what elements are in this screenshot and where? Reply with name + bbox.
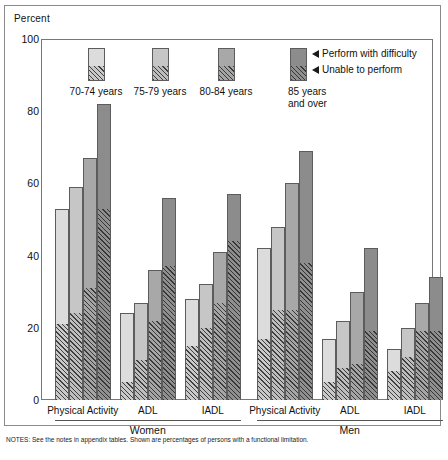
y-tick-60: 60: [5, 177, 39, 189]
legend-swatch-top: [153, 49, 168, 66]
y-tick-0: 0: [5, 394, 39, 406]
bar-men-iadl-80-84-years: [415, 303, 429, 400]
bar-segment-unable-to-perform: [286, 310, 298, 400]
bar-segment-perform-with-difficulty: [323, 340, 335, 383]
bar-segment-unable-to-perform: [149, 321, 161, 400]
bar-women-iadl-70-74-years: [185, 299, 199, 400]
bar-segment-unable-to-perform: [300, 263, 312, 400]
bar-women-adl-75-79-years: [134, 303, 148, 400]
bar-segment-perform-with-difficulty: [258, 249, 270, 339]
bar-segment-unable-to-perform: [56, 324, 68, 400]
bar-men-adl-85-years-and-over: [364, 248, 378, 400]
bar-women-adl-80-84-years: [148, 270, 162, 400]
bar-segment-unable-to-perform: [70, 313, 82, 400]
bar-segment-perform-with-difficulty: [430, 278, 442, 332]
bar-segment-perform-with-difficulty: [351, 293, 363, 365]
bar-women-iadl-85-years-and-over: [227, 194, 241, 400]
bar-segment-perform-with-difficulty: [388, 350, 400, 372]
legend-swatch-75-79: [152, 48, 169, 81]
bar-women-physical-activity-70-74-years: [55, 209, 69, 400]
x-label-physical-activity: Physical Activity: [249, 405, 320, 416]
y-tick-20: 20: [5, 322, 39, 334]
bar-segment-unable-to-perform: [228, 241, 240, 400]
bar-segment-perform-with-difficulty: [186, 300, 198, 347]
bar-men-adl-75-79-years: [336, 321, 350, 400]
bar-segment-unable-to-perform: [365, 331, 377, 400]
bar-segment-perform-with-difficulty: [149, 271, 161, 322]
bar-segment-unable-to-perform: [258, 339, 270, 400]
bar-segment-perform-with-difficulty: [70, 188, 82, 314]
bar-segment-perform-with-difficulty: [402, 329, 414, 358]
bar-segment-unable-to-perform: [135, 360, 147, 400]
bar-segment-perform-with-difficulty: [365, 249, 377, 332]
bar-segment-unable-to-perform: [186, 346, 198, 400]
bar-women-iadl-75-79-years: [199, 284, 213, 400]
bar-segment-perform-with-difficulty: [272, 228, 284, 311]
bar-men-iadl-70-74-years: [387, 349, 401, 400]
bar-segment-unable-to-perform: [337, 368, 349, 400]
bar-segment-perform-with-difficulty: [228, 195, 240, 242]
bar-segment-unable-to-perform: [351, 364, 363, 400]
bar-men-adl-70-74-years: [322, 339, 336, 400]
x-label-iadl: IADL: [404, 405, 426, 416]
group-rule-men: [257, 420, 443, 421]
bar-segment-perform-with-difficulty: [163, 199, 175, 268]
bar-women-physical-activity-80-84-years: [83, 158, 97, 400]
bar-segment-unable-to-perform: [430, 331, 442, 400]
bar-segment-unable-to-perform: [163, 266, 175, 400]
bar-segment-perform-with-difficulty: [416, 304, 428, 333]
bar-segment-perform-with-difficulty: [200, 285, 212, 328]
bar-segment-unable-to-perform: [84, 288, 96, 400]
bar-segment-perform-with-difficulty: [84, 159, 96, 289]
legend-label-85-over-line1: 85 years: [288, 86, 326, 97]
left-arrow-icon: [312, 66, 319, 74]
bar-segment-unable-to-perform: [323, 382, 335, 400]
bar-women-physical-activity-85-years-and-over: [97, 104, 111, 400]
figure-footnote: NOTES: See the notes in appendix tables.…: [6, 436, 442, 458]
bar-segment-unable-to-perform: [388, 371, 400, 400]
bar-segment-unable-to-perform: [272, 310, 284, 400]
legend-label-70-74: 70-74 years: [70, 86, 123, 97]
legend-swatch-bottom: [219, 66, 234, 80]
bar-segment-unable-to-perform: [121, 382, 133, 400]
bar-men-iadl-75-79-years: [401, 328, 415, 400]
legend-label-75-79: 75-79 years: [134, 86, 187, 97]
left-arrow-icon: [312, 50, 319, 58]
legend-swatch-70-74: [88, 48, 105, 81]
bar-women-adl-85-years-and-over: [162, 198, 176, 400]
legend-swatch-85-over: [290, 48, 307, 81]
bar-segment-perform-with-difficulty: [121, 314, 133, 383]
legend-swatch-top: [219, 49, 234, 66]
bar-men-iadl-85-years-and-over: [429, 277, 443, 400]
bar-men-physical-activity-85-years-and-over: [299, 151, 313, 400]
bar-segment-unable-to-perform: [200, 328, 212, 400]
bar-men-physical-activity-75-79-years: [271, 227, 285, 400]
bar-segment-unable-to-perform: [214, 303, 226, 400]
bar-segment-unable-to-perform: [98, 209, 110, 400]
chart-figure: Percent 100 80 60 40 20 0 Physical Activ…: [0, 0, 448, 460]
bar-women-physical-activity-75-79-years: [69, 187, 83, 400]
legend-swatch-top: [89, 49, 104, 66]
bar-segment-perform-with-difficulty: [286, 184, 298, 310]
bar-men-physical-activity-70-74-years: [257, 248, 271, 400]
bar-men-physical-activity-80-84-years: [285, 183, 299, 400]
x-label-physical-activity: Physical Activity: [47, 405, 118, 416]
legend-swatch-80-84: [218, 48, 235, 81]
legend-key-label: Perform with difficulty: [322, 48, 417, 59]
legend-key-label: Unable to perform: [322, 64, 402, 75]
legend-label-80-84: 80-84 years: [200, 86, 253, 97]
bar-segment-perform-with-difficulty: [300, 152, 312, 264]
legend-key-perform-with-difficulty: Perform with difficulty: [312, 48, 417, 59]
bar-segment-unable-to-perform: [402, 357, 414, 400]
legend-label-85-over-line2: and over: [288, 98, 327, 109]
group-rule-women: [55, 420, 241, 421]
group-label-women: Women: [130, 424, 166, 436]
bar-men-adl-80-84-years: [350, 292, 364, 400]
legend: 70-74 years 75-79 years 80-84 years 85 y…: [0, 0, 448, 140]
bar-segment-unable-to-perform: [416, 331, 428, 400]
x-label-iadl: IADL: [202, 405, 224, 416]
x-label-adl: ADL: [138, 405, 157, 416]
legend-swatch-bottom: [153, 66, 168, 80]
legend-swatch-bottom: [291, 66, 306, 80]
x-label-adl: ADL: [340, 405, 359, 416]
